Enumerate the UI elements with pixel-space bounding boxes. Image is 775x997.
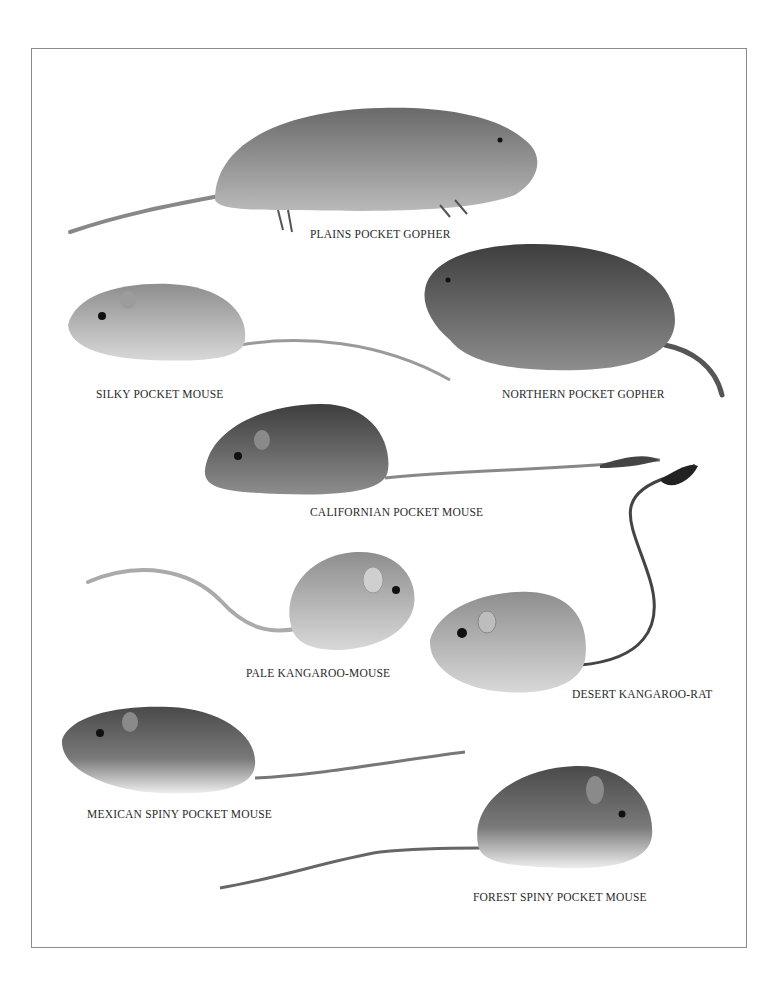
northern-pocket-gopher-figure xyxy=(424,244,722,395)
label-northern-pocket-gopher: NORTHERN POCKET GOPHER xyxy=(502,388,665,400)
desert-kangaroo-rat-figure xyxy=(430,465,698,693)
plains-pocket-gopher-figure xyxy=(70,108,537,232)
forest-spiny-pocket-mouse-figure xyxy=(220,766,652,888)
mexican-spiny-pocket-mouse-figure xyxy=(62,707,465,794)
label-mexican-spiny-pocket-mouse: MEXICAN SPINY POCKET MOUSE xyxy=(87,808,272,820)
label-pale-kangaroo-mouse: PALE KANGAROO-MOUSE xyxy=(246,667,390,679)
silky-pocket-mouse-figure xyxy=(68,284,450,380)
label-plains-pocket-gopher: PLAINS POCKET GOPHER xyxy=(310,228,451,240)
label-desert-kangaroo-rat: DESERT KANGAROO-RAT xyxy=(572,688,713,700)
illustration-layer xyxy=(0,0,775,997)
californian-pocket-mouse-figure xyxy=(205,404,660,494)
pale-kangaroo-mouse-figure xyxy=(88,552,415,650)
label-californian-pocket-mouse: CALIFORNIAN POCKET MOUSE xyxy=(310,506,483,518)
label-silky-pocket-mouse: SILKY POCKET MOUSE xyxy=(96,388,224,400)
label-forest-spiny-pocket-mouse: FOREST SPINY POCKET MOUSE xyxy=(473,891,647,903)
